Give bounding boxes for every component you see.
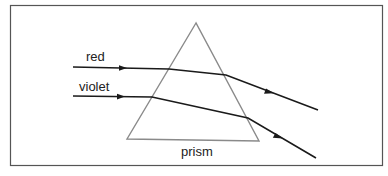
violet-ray-arrow-in-icon [117, 94, 125, 100]
red-label: red [86, 50, 105, 63]
prism-label: prism [181, 145, 213, 158]
prism-triangle [127, 23, 259, 141]
red-ray [73, 67, 318, 110]
prism-dispersion-diagram: red violet prism [0, 0, 388, 176]
diagram-frame [11, 6, 383, 166]
violet-label: violet [79, 80, 109, 93]
red-ray-arrow-in-icon [119, 65, 127, 71]
